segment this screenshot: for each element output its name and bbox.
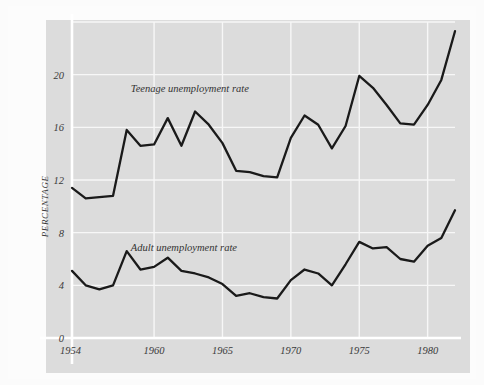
x-axis-tick-labels: 195419601965197019751980	[60, 345, 439, 356]
x-axis-tick-label: 1970	[280, 345, 302, 356]
y-axis-tick-label: 8	[59, 228, 65, 239]
y-axis-tick-label: 0	[59, 333, 65, 344]
y-axis-tick-label: 16	[54, 122, 65, 133]
y-axis-title-text: PERCENTAGE	[40, 175, 50, 238]
series-annotations: Teenage unemployment rateAdult unemploym…	[130, 83, 249, 253]
series-annotation-label: Adult unemployment rate	[130, 242, 237, 253]
y-axis-tick-label: 20	[54, 70, 65, 81]
x-axis-tick-label: 1965	[212, 345, 233, 356]
gridlines	[72, 22, 455, 338]
y-axis-title: PERCENTAGE	[40, 175, 50, 238]
figure-container: 048121620 195419601965197019751980 Teena…	[0, 0, 484, 385]
x-axis-tick-label: 1975	[349, 345, 370, 356]
x-axis-tick-label: 1980	[417, 345, 439, 356]
line-chart: 048121620 195419601965197019751980 Teena…	[0, 0, 484, 385]
y-axis-tick-label: 4	[59, 280, 65, 291]
data-series-lines	[72, 31, 455, 298]
axis-lines	[40, 14, 461, 364]
y-axis-tick-labels: 048121620	[54, 70, 65, 344]
y-axis-tick-label: 12	[54, 175, 65, 186]
x-axis-tick-label: 1954	[60, 345, 82, 356]
x-axis-tick-label: 1960	[144, 345, 166, 356]
data-line-series	[72, 31, 455, 198]
series-annotation-label: Teenage unemployment rate	[131, 83, 249, 94]
